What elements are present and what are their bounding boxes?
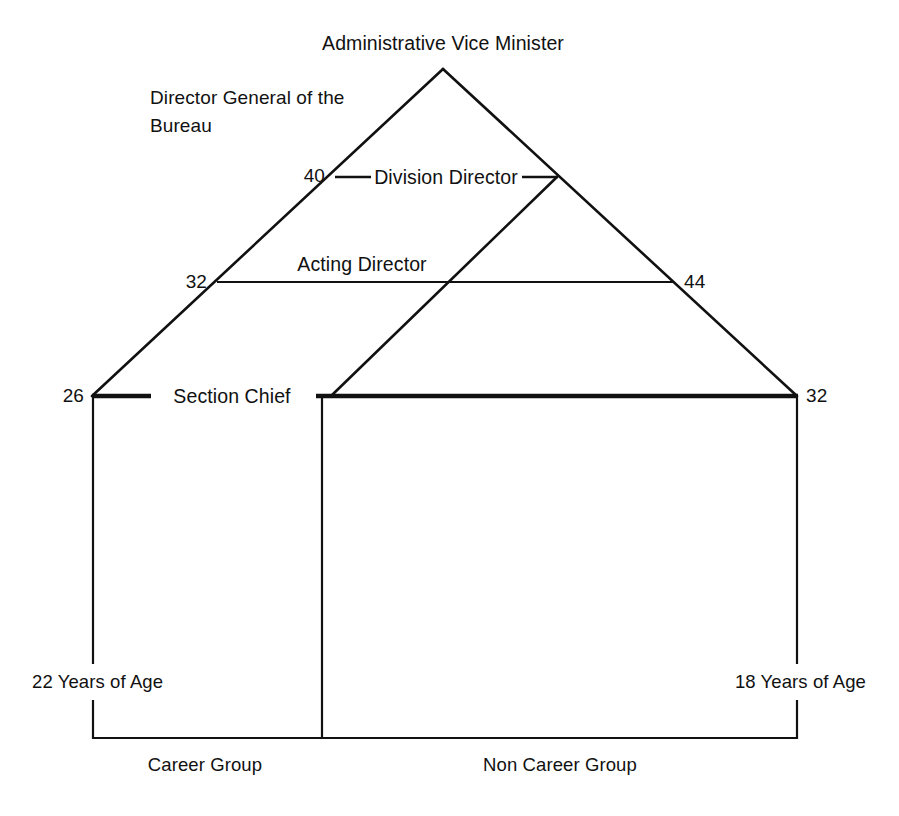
rank-acting-director: Acting Director <box>297 253 426 276</box>
director-general-label-line1: Director General of the <box>150 87 345 109</box>
left-outer-diagonal <box>92 69 443 396</box>
rank-division-director: Division Director <box>374 166 518 189</box>
right-outer-diagonal <box>443 69 797 396</box>
career-pyramid-diagram: Administrative Vice Minister Director Ge… <box>0 0 899 816</box>
age-acting-director-non-career: 44 <box>684 271 705 293</box>
entry-age-non-career: 18 Years of Age <box>735 671 866 693</box>
apex-label: Administrative Vice Minister <box>322 32 564 55</box>
diagram-lines <box>0 0 899 816</box>
group-label-non-career: Non Career Group <box>483 754 637 776</box>
age-division-director-career: 40 <box>304 165 325 187</box>
age-section-chief-career: 26 <box>63 385 84 407</box>
inner-diagonal <box>331 176 558 396</box>
director-general-label-line2: Bureau <box>150 115 212 137</box>
group-label-career: Career Group <box>148 754 262 776</box>
age-acting-director-career: 32 <box>186 271 207 293</box>
entry-age-career: 22 Years of Age <box>32 671 163 693</box>
age-section-chief-non-career: 32 <box>806 385 827 407</box>
rank-section-chief: Section Chief <box>173 385 290 408</box>
